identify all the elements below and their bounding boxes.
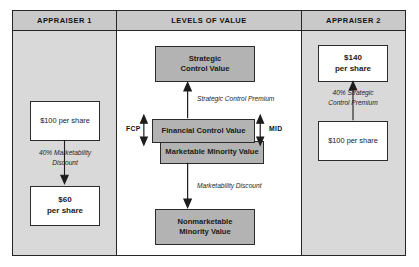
marketability-discount-annotation: Marketability Discount (197, 181, 307, 191)
column-body-levels-of-value: Strategic Control Value Strategic Contro… (117, 31, 301, 255)
appraiser2-premium-line1: 40% Strategic (332, 89, 373, 96)
nonmarketable-minority-value-line1: Nonmarketable (178, 217, 233, 227)
column-header-appraiser-2: APPRAISER 2 (302, 11, 405, 31)
strategic-control-value-line1: Strategic (189, 54, 222, 64)
nonmarketable-minority-value-box: Nonmarketable Minority Value (155, 209, 255, 245)
strategic-premium-arrow-head (184, 83, 191, 91)
column-body-appraiser-1: $100 per share 40% Marketability Discoun… (13, 31, 116, 255)
appraiser2-top-value-amount: $140 (344, 53, 362, 64)
appraiser1-discount-line2: Discount (52, 159, 78, 166)
appraiser2-top-value-unit: per share (335, 64, 371, 75)
strategic-control-value-line2: Control Value (181, 64, 230, 74)
appraiser1-arrow-head (61, 175, 68, 183)
strategic-control-premium-annotation: Strategic Control Premium (197, 94, 307, 104)
financial-control-value-box: Financial Control Value (152, 119, 255, 143)
appraiser1-top-value: $100 per share (40, 116, 90, 126)
marketable-minority-value-label: Marketable Minority Value (165, 147, 258, 157)
appraiser1-bottom-value-box: $60 per share (30, 186, 100, 226)
fcp-arrow-head-up (140, 115, 147, 123)
fcp-arrow-head-down (140, 137, 147, 145)
marketability-discount-arrow-head (184, 199, 191, 207)
column-appraiser-1: APPRAISER 1 $100 per share 40% Marketabi… (13, 11, 117, 255)
marketable-minority-value-box: Marketable Minority Value (160, 141, 264, 164)
appraiser1-discount-annotation: 40% Marketability Discount (27, 148, 103, 167)
appraiser2-bottom-value: $100 per share (328, 136, 378, 146)
financial-control-value-label: Financial Control Value (162, 126, 246, 136)
column-levels-of-value: LEVELS OF VALUE Strategic Control Value … (117, 11, 302, 255)
strategic-control-value-box: Strategic Control Value (155, 46, 255, 82)
appraiser2-bottom-value-box: $100 per share (318, 121, 388, 161)
appraiser1-discount-line1: 40% Marketability (39, 149, 91, 156)
column-header-appraiser-1: APPRAISER 1 (13, 11, 116, 31)
appraiser1-bottom-value-amount: $60 (58, 195, 71, 206)
appraiser2-top-value-box: $140 per share (318, 45, 388, 82)
mid-label: MID (269, 125, 282, 132)
diagram-frame: APPRAISER 1 $100 per share 40% Marketabi… (12, 10, 406, 256)
column-appraiser-2: APPRAISER 2 $140 per share 40% Strategic… (302, 11, 405, 255)
appraiser2-premium-annotation: 40% Strategic Control Premium (315, 88, 391, 107)
mid-arrow-head-up (257, 115, 264, 123)
column-body-appraiser-2: $140 per share 40% Strategic Control Pre… (302, 31, 405, 255)
column-header-levels-of-value: LEVELS OF VALUE (117, 11, 301, 31)
nonmarketable-minority-value-line2: Minority Value (179, 227, 230, 237)
appraiser2-premium-line2: Control Premium (328, 99, 377, 106)
appraiser1-top-value-box: $100 per share (30, 101, 100, 141)
fcp-label: FCP (126, 125, 141, 132)
diagram-canvas: APPRAISER 1 $100 per share 40% Marketabi… (0, 0, 419, 267)
appraiser1-bottom-value-unit: per share (47, 206, 83, 217)
